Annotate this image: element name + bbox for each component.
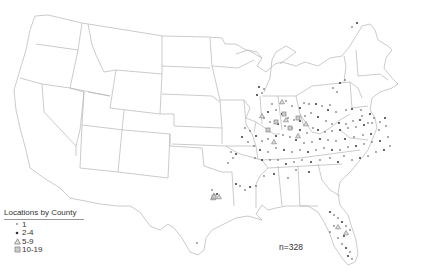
location-dot — [287, 117, 289, 119]
location-dot — [359, 157, 361, 159]
location-dot — [339, 82, 341, 84]
location-dot — [359, 119, 361, 121]
location-triangle — [336, 225, 341, 229]
location-dot — [253, 145, 255, 147]
location-dot — [295, 139, 297, 141]
location-dot — [332, 87, 334, 89]
location-dot — [337, 217, 339, 219]
location-dot — [235, 183, 237, 185]
location-dot — [345, 123, 347, 125]
location-dot — [345, 225, 347, 227]
location-dot — [335, 140, 337, 142]
location-dot — [261, 92, 263, 94]
location-dot — [283, 149, 285, 151]
location-dot — [367, 122, 369, 124]
location-dot — [319, 159, 321, 161]
location-dot — [317, 116, 319, 118]
location-dot — [371, 122, 373, 124]
location-square — [288, 126, 292, 130]
location-dot — [344, 79, 346, 81]
location-dot — [331, 149, 333, 151]
location-dot — [244, 127, 246, 129]
location-dot — [299, 149, 301, 151]
location-dot — [387, 136, 389, 138]
location-dot — [269, 159, 271, 161]
location-dot — [370, 133, 372, 135]
location-triangle — [280, 100, 285, 104]
location-dot — [363, 143, 365, 145]
location-dot — [378, 129, 380, 131]
dot-icon — [12, 230, 22, 236]
location-dot — [329, 104, 331, 106]
location-dot — [254, 157, 256, 159]
location-dot — [371, 141, 373, 143]
location-dot — [284, 125, 286, 127]
location-dot — [255, 135, 257, 137]
location-dot — [259, 149, 261, 151]
location-dot — [379, 140, 381, 142]
location-dot — [289, 136, 291, 138]
location-dot — [255, 185, 257, 187]
location-dot — [360, 109, 362, 111]
location-dot — [267, 151, 269, 153]
location-dot — [362, 134, 364, 136]
location-dot — [375, 151, 377, 153]
location-dot — [295, 169, 297, 171]
location-dot — [327, 139, 329, 141]
location-dot — [319, 138, 321, 140]
location-dot — [343, 155, 345, 157]
location-dot — [291, 105, 293, 107]
location-dot — [275, 109, 277, 111]
location-dot — [263, 88, 265, 90]
location-dot — [312, 127, 314, 129]
location-dot — [211, 189, 213, 191]
location-dot — [351, 159, 353, 161]
location-dot — [355, 145, 357, 147]
location-dot — [269, 121, 271, 123]
location-dot — [353, 136, 355, 138]
legend: Locations by County 1 2-4 5-9 10-19 — [4, 208, 84, 254]
location-dot — [329, 231, 331, 233]
location-dot — [261, 159, 263, 161]
location-dot — [244, 189, 246, 191]
location-triangle — [304, 122, 309, 126]
location-square — [212, 195, 216, 199]
location-dot — [363, 124, 365, 126]
location-dot — [249, 130, 251, 132]
location-dot — [285, 100, 287, 102]
location-dot — [351, 108, 353, 110]
location-dot — [299, 129, 301, 131]
location-dot — [338, 122, 340, 124]
legend-item-10-19: 10-19 — [12, 246, 84, 255]
location-dot — [303, 102, 305, 104]
location-dot — [282, 134, 284, 136]
location-dot — [275, 135, 277, 137]
location-dot — [339, 149, 341, 151]
location-dot — [299, 107, 301, 109]
location-dot — [227, 162, 229, 164]
location-dot — [333, 225, 335, 227]
location-dot — [337, 161, 339, 163]
location-dot — [308, 103, 310, 105]
location-dot — [273, 173, 275, 175]
location-dot — [267, 138, 269, 140]
location-dot — [293, 119, 295, 121]
location-dot — [356, 22, 358, 24]
location-triangle — [344, 231, 349, 235]
location-dot — [344, 138, 346, 140]
location-dot — [303, 142, 305, 144]
location-dot — [277, 159, 279, 161]
legend-item-2-4: 2-4 — [12, 229, 84, 238]
location-dot — [311, 141, 313, 143]
triangle-icon — [12, 238, 22, 245]
location-dot — [373, 117, 375, 119]
location-dot — [351, 258, 353, 260]
location-dot — [271, 103, 273, 105]
location-dot — [213, 193, 215, 195]
location-dot — [383, 149, 385, 151]
location-dot — [351, 26, 353, 28]
location-dot — [347, 255, 349, 257]
location-markers — [196, 22, 391, 260]
location-dot — [310, 112, 312, 114]
location-dot — [275, 147, 277, 149]
